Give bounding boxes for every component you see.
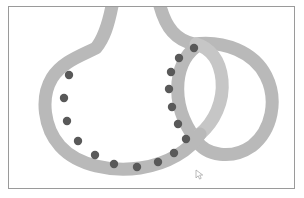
marker-dot	[174, 120, 182, 128]
screenshot-root	[0, 0, 304, 198]
marker-dot	[74, 137, 82, 145]
marker-dot	[91, 151, 99, 159]
marker-dot	[170, 149, 178, 157]
marker-dot	[175, 54, 183, 62]
marker-dot	[182, 135, 190, 143]
marker-dot	[65, 71, 73, 79]
band-crossing-strand	[196, 44, 222, 134]
marker-dot	[190, 44, 198, 52]
marker-dot	[60, 94, 68, 102]
marker-dot	[165, 85, 173, 93]
knot-figure	[0, 0, 304, 198]
marker-dot	[133, 163, 141, 171]
knot-diagram-svg	[0, 0, 304, 198]
marker-dot	[154, 158, 162, 166]
marker-dot	[168, 103, 176, 111]
marker-dot	[110, 160, 118, 168]
marker-dot	[63, 117, 71, 125]
marker-dot	[167, 68, 175, 76]
